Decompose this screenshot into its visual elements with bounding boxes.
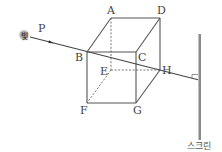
light-source-label: 빛 bbox=[21, 31, 28, 41]
vertex-label-G: G bbox=[133, 104, 142, 117]
screen-label: 스크린 bbox=[187, 141, 211, 151]
vertex-label-C: C bbox=[138, 51, 146, 64]
edge-DC bbox=[136, 18, 160, 52]
edge-AB bbox=[87, 18, 111, 52]
vertex-label-F: F bbox=[80, 104, 88, 117]
right-angle-mark bbox=[192, 75, 198, 79]
edge-HG bbox=[136, 70, 160, 103]
vertex-label-B: B bbox=[75, 51, 83, 64]
cube-light-diagram: 빛 P 스크린 A D B C E H F G bbox=[0, 0, 222, 152]
point-p-label: P bbox=[38, 22, 46, 35]
vertex-label-E: E bbox=[100, 65, 108, 78]
light-ray bbox=[30, 37, 199, 80]
ray-arrow-icon bbox=[48, 40, 54, 43]
vertex-label-H: H bbox=[162, 64, 172, 77]
vertex-label-D: D bbox=[157, 4, 166, 17]
vertex-label-A: A bbox=[106, 4, 116, 17]
